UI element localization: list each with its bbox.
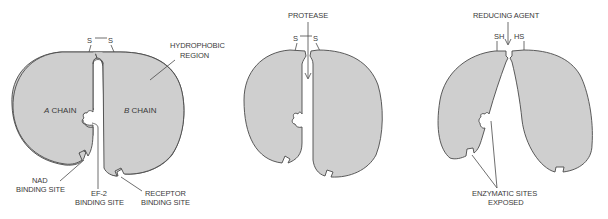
panel-intact: S S A CHAIN B CHAIN HYDROPHOBIC REGION N…	[12, 36, 226, 207]
receptor-label-line1: RECEPTOR	[145, 189, 186, 198]
disulfide-right-stem	[111, 45, 114, 52]
receptor-leader	[121, 177, 142, 191]
reduced-b-chain	[510, 50, 592, 172]
protease-s-left-stem	[295, 43, 297, 51]
disulfide-s-right: S	[108, 36, 113, 45]
exposed-leader-ef2	[491, 121, 497, 188]
protease-b-chain	[310, 50, 382, 177]
b-chain-label-rest: CHAIN	[129, 106, 156, 115]
thiol-sh-label: SH	[494, 32, 504, 41]
nad-label-line2: BINDING SITE	[16, 185, 65, 194]
a-chain-label: A CHAIN	[43, 106, 77, 115]
hydrophobic-label-line2: REGION	[180, 51, 209, 60]
exposed-label-line1: ENZYMATIC SITES	[472, 189, 537, 198]
hydrophobic-label-line1: HYDROPHOBIC	[170, 41, 225, 50]
reduced-a-chain	[438, 51, 508, 159]
disulfide-s-left: S	[87, 36, 92, 45]
panel-reduced: REDUCING AGENT SH HS ENZYMATIC SITES EXP…	[438, 11, 592, 207]
diphtheria-toxin-diagram: S S A CHAIN B CHAIN HYDROPHOBIC REGION N…	[0, 0, 608, 219]
exposed-leader-nad	[472, 155, 497, 188]
thiol-hs-label: HS	[514, 32, 524, 41]
protease-label: PROTEASE	[288, 11, 328, 20]
b-chain-label: B CHAIN	[124, 106, 157, 115]
a-chain-label-rest: CHAIN	[49, 106, 76, 115]
receptor-label-line2: BINDING SITE	[141, 198, 190, 207]
protease-disulfide-s-right: S	[313, 34, 318, 43]
panel-protease: PROTEASE S S	[244, 11, 382, 177]
protease-a-chain	[244, 50, 306, 163]
ef2-label-line2: BINDING SITE	[75, 198, 124, 207]
reducing-agent-label: REDUCING AGENT	[473, 11, 540, 20]
exposed-label-line2: EXPOSED	[488, 198, 524, 207]
protease-disulfide-s-left: S	[293, 34, 298, 43]
nad-label-line1: NAD	[32, 176, 48, 185]
ef2-label-line1: EF-2	[91, 189, 107, 198]
disulfide-left-stem	[89, 45, 91, 52]
